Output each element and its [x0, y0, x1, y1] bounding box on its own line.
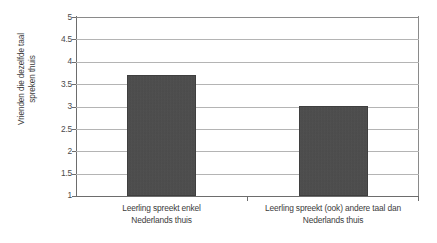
y-tick-label-3: 3: [28, 102, 72, 111]
y-tick-3-5: [72, 84, 76, 85]
y-tick-1-5: [72, 174, 76, 175]
y-tick-4: [72, 62, 76, 63]
y-tick-label-4: 4: [28, 57, 72, 66]
y-tick-2: [72, 151, 76, 152]
x-tick-divider: [247, 197, 248, 201]
gridline-4: [76, 62, 419, 63]
bar-category-1[interactable]: [127, 75, 196, 196]
y-tick-label-4-5: 4.5: [28, 35, 72, 44]
y-tick-2-5: [72, 129, 76, 130]
y-tick-4-5: [72, 39, 76, 40]
y-tick-5: [72, 17, 76, 18]
y-tick-label-5: 5: [28, 13, 72, 22]
y-tick-label-1: 1: [28, 191, 72, 200]
x-category-label-1: Leerling spreekt enkel Nederlands thuis: [76, 203, 247, 226]
bar-chart: Vrienden die dezelfde taal spreken thuis…: [0, 0, 437, 243]
y-tick-1: [72, 196, 76, 197]
y-tick-3: [72, 107, 76, 108]
plot-area: [76, 17, 419, 196]
x-category-label-2: Leerling spreekt (ook) andere taal dan N…: [247, 203, 419, 226]
y-tick-label-1-5: 1.5: [28, 169, 72, 178]
y-tick-label-2-5: 2.5: [28, 125, 72, 134]
y-tick-label-2: 2: [28, 147, 72, 156]
gridline-5: [76, 17, 419, 18]
x-tick-right: [418, 197, 419, 201]
gridline-4-5: [76, 39, 419, 40]
bar-category-2[interactable]: [299, 106, 368, 196]
y-tick-label-3-5: 3.5: [28, 80, 72, 89]
